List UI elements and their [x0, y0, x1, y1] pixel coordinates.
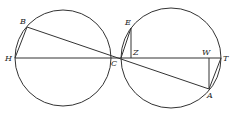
label-a: A [206, 91, 213, 100]
segment-at [209, 58, 221, 89]
segment-bh [15, 27, 27, 58]
label-c: C [111, 59, 117, 68]
geometry-diagram: B H C E Z W T A [0, 0, 239, 114]
label-t: T [223, 54, 229, 63]
label-b: B [19, 17, 26, 26]
label-z: Z [132, 48, 139, 57]
label-e: E [124, 18, 131, 27]
label-w: W [202, 48, 211, 57]
label-h: H [4, 54, 13, 63]
segment-ec [121, 28, 131, 58]
